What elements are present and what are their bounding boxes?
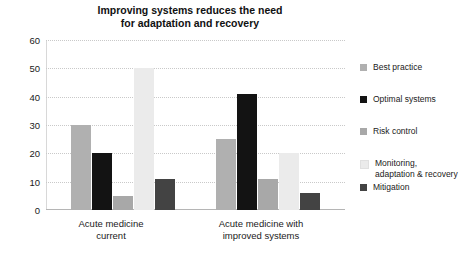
y-axis-tick-10: 10	[29, 176, 40, 187]
legend-item-3[interactable]: Monitoring, adaptation & recovery	[360, 158, 458, 179]
bar-group-0-series-1	[92, 153, 112, 210]
category-label-0-line-1: Acute medicine	[46, 218, 176, 230]
bar-group-0-series-0	[71, 125, 91, 210]
gridline-y-30	[46, 125, 345, 126]
y-axis-tick-60: 60	[29, 35, 40, 46]
bar-group-0-series-2	[113, 196, 133, 210]
y-axis-tick-20: 20	[29, 148, 40, 159]
category-label-0-line-2: current	[46, 230, 176, 242]
bar-group-1-series-1	[237, 94, 257, 210]
legend-swatch-icon-3	[360, 160, 369, 169]
legend-swatch-icon-4	[360, 184, 367, 191]
y-axis-tick-0: 0	[35, 205, 40, 216]
gridline-y-50	[46, 68, 345, 69]
legend-item-4[interactable]: Mitigation	[360, 182, 409, 193]
legend-label-3: Monitoring, adaptation & recovery	[375, 158, 458, 179]
chart-title-line-1: Improving systems reduces the need	[55, 4, 325, 17]
plot-area: 0102030405060	[46, 40, 345, 210]
gridline-y-60	[46, 40, 345, 41]
legend-swatch-icon-1	[360, 96, 367, 103]
legend-item-0[interactable]: Best practice	[360, 62, 422, 73]
bar-group-1-series-0	[216, 139, 236, 210]
legend-label-4: Mitigation	[373, 182, 409, 193]
chart-root: Improving systems reduces the need for a…	[0, 0, 469, 257]
bar-group-1-series-3	[279, 153, 299, 210]
y-axis-tick-40: 40	[29, 91, 40, 102]
chart-title: Improving systems reduces the need for a…	[55, 4, 325, 30]
bar-group-0-series-3	[134, 68, 154, 210]
category-label-0: Acute medicine current	[46, 218, 176, 242]
bar-group-0-series-4	[155, 179, 175, 210]
legend-label-0: Best practice	[373, 62, 422, 73]
chart-title-line-2: for adaptation and recovery	[55, 17, 325, 30]
bar-group-1-series-4	[300, 193, 320, 210]
legend-swatch-icon-2	[360, 128, 367, 135]
legend-item-2[interactable]: Risk control	[360, 126, 417, 137]
category-label-1-line-1: Acute medicine with	[196, 218, 326, 230]
bar-group-1-series-2	[258, 179, 278, 210]
category-label-1-line-2: improved systems	[196, 230, 326, 242]
legend-swatch-icon-0	[360, 64, 367, 71]
legend-item-1[interactable]: Optimal systems	[360, 94, 436, 105]
legend-label-1: Optimal systems	[373, 94, 436, 105]
legend-label-2: Risk control	[373, 126, 417, 137]
gridline-y-40	[46, 97, 345, 98]
category-label-1: Acute medicine with improved systems	[196, 218, 326, 242]
y-axis-tick-50: 50	[29, 63, 40, 74]
y-axis-tick-30: 30	[29, 120, 40, 131]
